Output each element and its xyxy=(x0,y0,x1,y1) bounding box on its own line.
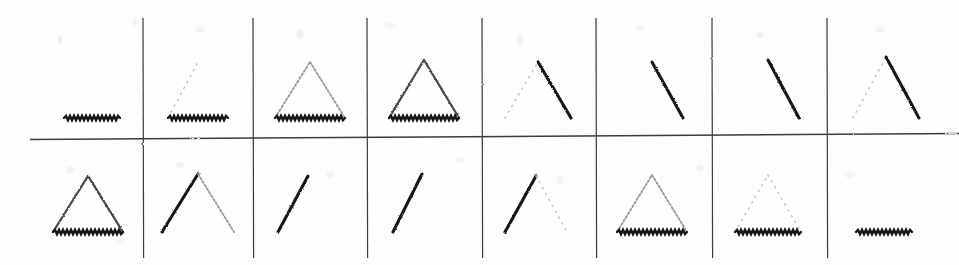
stimulus-cell-r1c1 xyxy=(64,116,120,120)
figure-canvas xyxy=(0,0,959,265)
triangle-edge-left xyxy=(853,57,886,118)
stimulus-cell-r2c3 xyxy=(278,176,308,232)
triangle-edge-left xyxy=(735,175,768,232)
stimulus-cell-r2c6 xyxy=(617,175,687,234)
triangle-edge-base xyxy=(617,230,687,234)
stimulus-figure xyxy=(0,0,959,265)
triangle-edge-base xyxy=(53,230,123,234)
triangle-edge-right xyxy=(538,62,571,118)
grid-line-horizontal xyxy=(30,134,959,140)
triangle-edge-right xyxy=(310,62,345,118)
stimulus-cell-r2c8 xyxy=(856,230,912,234)
triangle-edge-right xyxy=(886,57,919,118)
triangle-edge-left xyxy=(617,175,652,232)
triangle-edge-left xyxy=(389,60,424,118)
triangle-edge-left xyxy=(168,62,198,118)
triangle-edge-base xyxy=(64,116,120,120)
stimulus-cell-r1c4 xyxy=(389,60,459,120)
triangle-edge-left xyxy=(505,62,538,118)
grid-line-vertical-6 xyxy=(712,18,713,258)
triangle-edge-base xyxy=(735,230,801,234)
triangle-edge-right xyxy=(424,60,459,118)
stimulus-cell-r1c5 xyxy=(505,62,571,118)
triangle-edge-right xyxy=(652,175,687,232)
stimulus-cell-r1c6 xyxy=(652,62,683,118)
stimulus-cell-r1c7 xyxy=(768,60,799,118)
triangle-edge-right xyxy=(768,60,799,118)
triangle-edge-left xyxy=(278,176,308,232)
triangle-edge-right xyxy=(768,175,801,232)
grid-line-vertical-7 xyxy=(827,18,828,258)
triangle-edge-right xyxy=(652,62,683,118)
stimulus-cell-r2c2 xyxy=(162,174,234,232)
grid-line-vertical-1 xyxy=(143,18,144,258)
triangle-edge-base xyxy=(168,116,228,120)
stimulus-cells xyxy=(53,57,919,234)
triangle-edge-right xyxy=(198,174,234,232)
stimulus-cell-r2c4 xyxy=(393,174,422,232)
stimulus-cell-r1c2 xyxy=(168,62,228,120)
triangle-edge-left xyxy=(505,176,536,232)
triangle-edge-right xyxy=(88,176,123,232)
triangle-edge-right xyxy=(536,176,567,232)
grid-line-vertical-5 xyxy=(596,18,597,258)
triangle-edge-base xyxy=(275,116,345,120)
stimulus-cell-r2c1 xyxy=(53,176,123,234)
triangle-edge-left xyxy=(162,174,198,232)
stimulus-cell-r1c3 xyxy=(275,62,345,120)
triangle-edge-base xyxy=(856,230,912,234)
triangle-edge-left xyxy=(53,176,88,232)
stimulus-cell-r2c7 xyxy=(735,175,801,234)
triangle-edge-left xyxy=(275,62,310,118)
triangle-edge-base xyxy=(389,116,459,120)
stimulus-cell-r2c5 xyxy=(505,176,567,232)
stimulus-cell-r1c8 xyxy=(853,57,919,118)
grid-line-vertical-4 xyxy=(482,18,483,258)
triangle-edge-left xyxy=(393,174,422,232)
